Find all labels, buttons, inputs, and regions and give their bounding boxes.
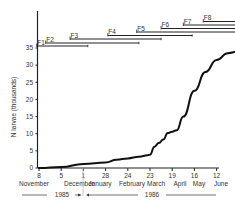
y-tick-label: 10 <box>26 130 34 137</box>
period-label: F5 <box>137 25 145 32</box>
x-month-label: June <box>214 180 228 187</box>
y-tick-label: 25 <box>26 79 34 86</box>
x-tick-day: 5 <box>59 172 63 179</box>
x-tick-day: 19 <box>169 172 177 179</box>
x-month-label: February <box>119 180 146 188</box>
x-month-label: May <box>193 180 206 188</box>
y-tick-label: 20 <box>26 96 34 103</box>
x-tick-day: 23 <box>146 172 154 179</box>
y-ticks: 05101520253035 <box>26 44 38 171</box>
x-tick-day: 12 <box>213 172 221 179</box>
x-month-label: November <box>19 180 50 187</box>
period-label: F3 <box>71 32 79 39</box>
year-1985: 1985 <box>55 191 70 198</box>
x-tick-day: 24 <box>124 172 132 179</box>
period-label: F6 <box>162 21 170 28</box>
larvae-curve <box>39 51 235 168</box>
x-tick-day: 1 <box>82 172 86 179</box>
y-tick-label: 5 <box>29 147 33 154</box>
period-label: F4 <box>108 28 116 35</box>
period-label: F1 <box>37 39 45 46</box>
y-tick-label: 35 <box>26 44 34 51</box>
y-tick-label: 0 <box>29 164 33 171</box>
x-tick-day: 16 <box>191 172 199 179</box>
year-annotation: 1985 1986 <box>22 191 216 198</box>
x-month-label: March <box>147 180 165 187</box>
x-month-label: April <box>173 180 187 188</box>
larvae-chart: 05101520253035 851282423191612NovemberDe… <box>0 0 235 208</box>
year-1986: 1986 <box>145 191 160 198</box>
y-tick-label: 30 <box>26 61 34 68</box>
period-label: F8 <box>204 14 212 21</box>
y-axis-label: N larvae (thousands) <box>10 77 18 137</box>
x-tick-day: 28 <box>102 172 110 179</box>
period-label: F7 <box>184 18 192 25</box>
x-month-label: January <box>88 180 112 188</box>
x-ticks: 851282423191612NovemberDecemberJanuaryFe… <box>19 168 228 188</box>
x-tick-day: 8 <box>37 172 41 179</box>
period-bars: F1F2F3F4F5F6F7F8 <box>37 14 235 47</box>
period-label: F2 <box>46 36 54 43</box>
y-tick-label: 15 <box>26 113 34 120</box>
